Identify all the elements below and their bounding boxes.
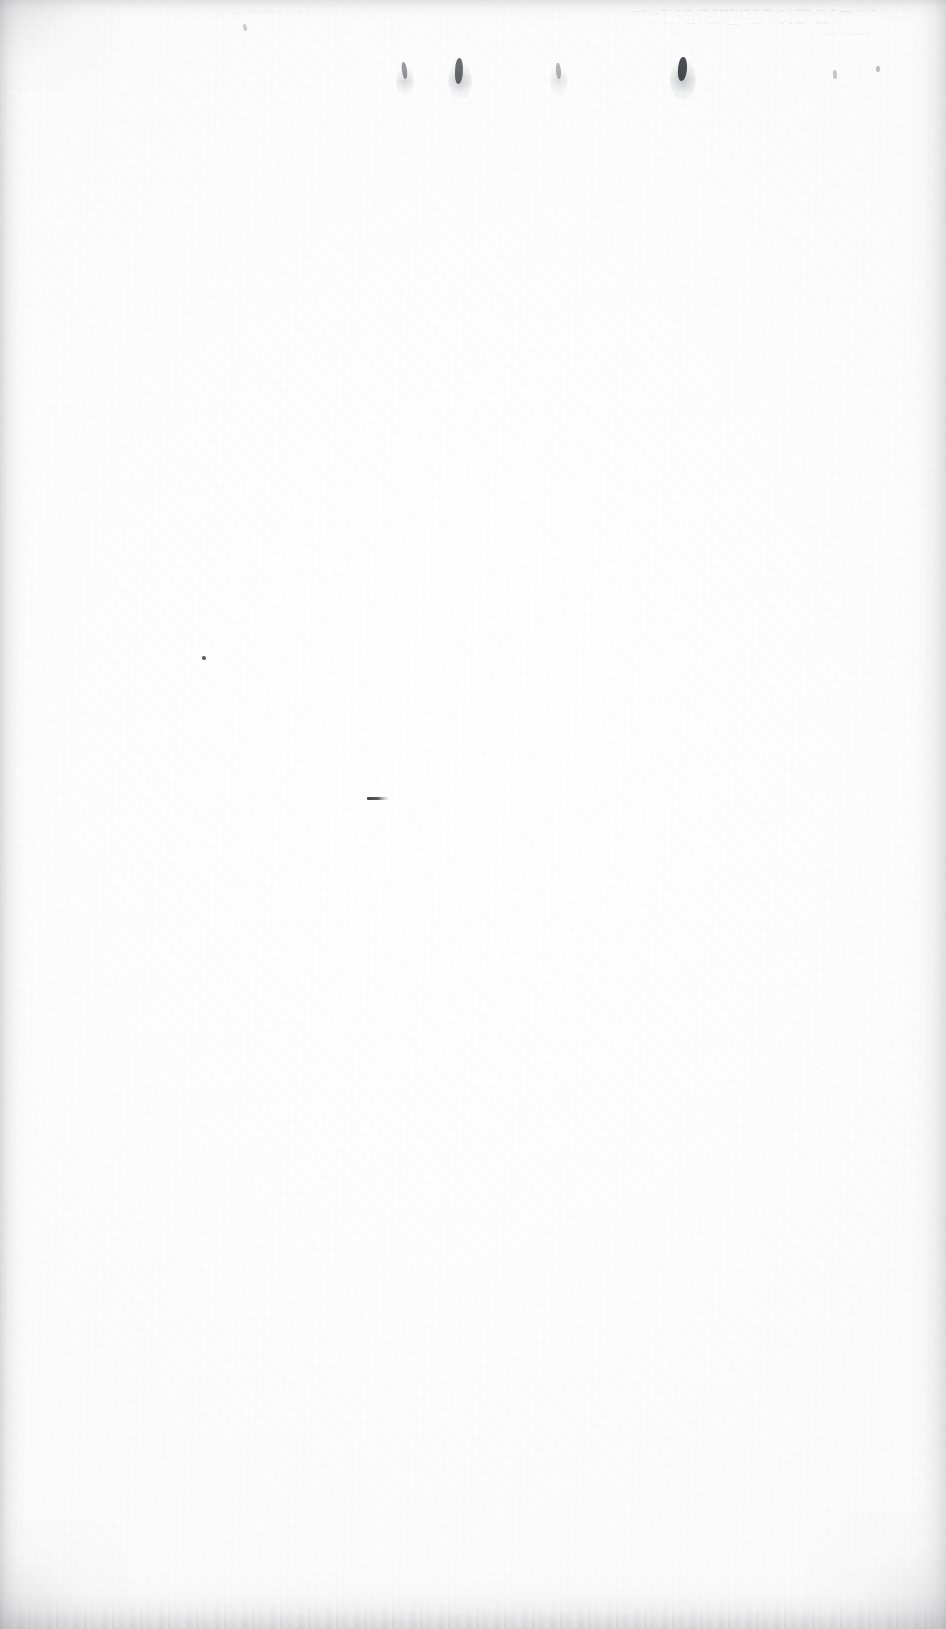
scanned-page: ~ ~ ·· —- · ~· -·~ ·~ ~--~ ·- ~ ~· - ··~… [0,0,946,1629]
page-content-area [90,150,856,1479]
